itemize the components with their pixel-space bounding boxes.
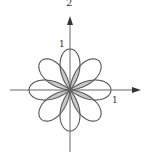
figure-title: 2 xyxy=(66,0,72,8)
x-axis-arrow-icon xyxy=(132,87,141,93)
rose-petal xyxy=(70,90,101,121)
rose-petal xyxy=(70,59,101,90)
rose-petal xyxy=(39,59,70,90)
y-tick-label: 1 xyxy=(59,40,65,49)
y-axis-arrow-icon xyxy=(67,16,73,25)
polar-rose-diagram xyxy=(0,0,152,159)
x-tick-label: 1 xyxy=(112,96,118,105)
rose-petal xyxy=(39,90,70,121)
